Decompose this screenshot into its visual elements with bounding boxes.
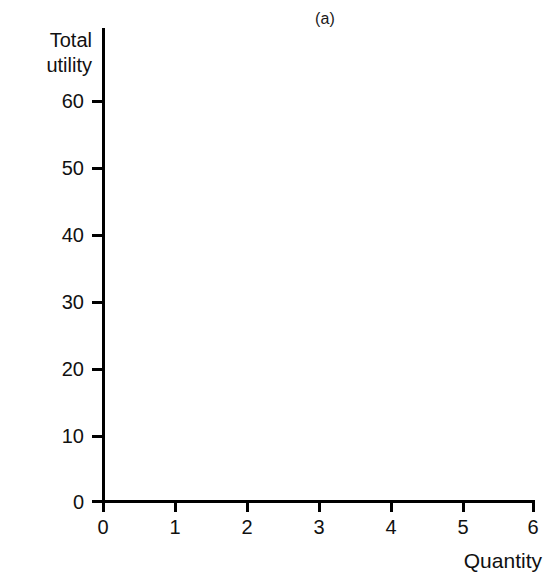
chart-figure: (a) Total utility 60 50 40 30 20 10 0 0 …	[0, 0, 552, 584]
y-axis-ticklabel-0: 0	[38, 492, 84, 512]
x-axis-tick-5	[462, 500, 465, 512]
x-axis-tick-1	[174, 500, 177, 512]
y-axis-ticklabel-30: 30	[38, 292, 84, 312]
x-axis-tick-0	[102, 500, 105, 512]
x-axis-ticklabel-3: 3	[299, 517, 339, 537]
y-axis-tick-30	[92, 301, 103, 304]
plot-area	[105, 28, 535, 500]
x-axis-tick-6	[532, 500, 535, 512]
y-axis-tick-10	[92, 435, 103, 438]
x-axis-ticklabel-5: 5	[443, 517, 483, 537]
x-axis-ticklabel-1: 1	[155, 517, 195, 537]
y-axis-title-line-1: Total	[2, 28, 92, 53]
y-axis-ticklabel-20: 20	[38, 359, 84, 379]
x-axis-title: Quantity	[420, 549, 542, 573]
panel-title: (a)	[285, 10, 365, 28]
x-axis-ticklabel-2: 2	[227, 517, 267, 537]
x-axis-ticklabel-6: 6	[513, 517, 552, 537]
y-axis-tick-40	[92, 234, 103, 237]
y-axis-ticklabel-40: 40	[38, 225, 84, 245]
x-axis-ticklabel-0: 0	[83, 517, 123, 537]
x-axis-tick-2	[246, 500, 249, 512]
y-axis-title: Total utility	[2, 28, 92, 78]
x-axis-line	[94, 500, 535, 503]
x-axis-tick-3	[318, 500, 321, 512]
x-axis-ticklabel-4: 4	[371, 517, 411, 537]
y-axis-tick-50	[92, 167, 103, 170]
y-axis-tick-20	[92, 368, 103, 371]
y-axis-ticklabel-60: 60	[38, 91, 84, 111]
y-axis-ticklabel-10: 10	[38, 426, 84, 446]
y-axis-tick-60	[92, 100, 103, 103]
x-axis-tick-4	[390, 500, 393, 512]
y-axis-ticklabel-50: 50	[38, 158, 84, 178]
y-axis-title-line-2: utility	[2, 53, 92, 78]
